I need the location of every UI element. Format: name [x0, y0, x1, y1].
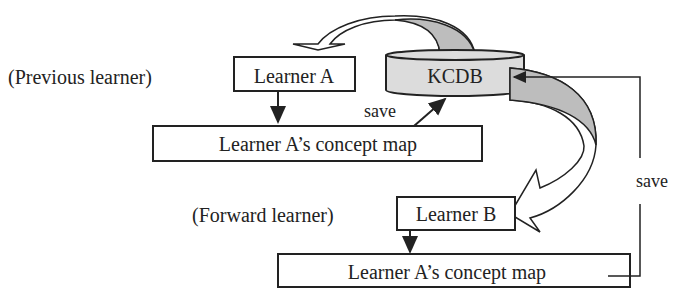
save-label-a: save: [364, 101, 396, 121]
retrieve-arrow-a: [293, 16, 475, 54]
learner-a-label: Learner A: [254, 65, 335, 87]
learner-b-label: Learner B: [416, 203, 497, 225]
save-label-b: save: [636, 171, 668, 191]
previous-learner-label: (Previous learner): [8, 66, 152, 89]
save-arrow-a: [414, 99, 445, 126]
forward-learner-label: (Forward learner): [192, 204, 334, 227]
retrieve-arrow-b: [510, 68, 596, 232]
diagram-canvas: (Previous learner) Learner A KCDB save L…: [0, 0, 686, 304]
concept-map-b-label: Learner A’s concept map: [348, 261, 546, 284]
kcdb-label: KCDB: [427, 65, 483, 87]
concept-map-a-label: Learner A’s concept map: [219, 133, 417, 156]
